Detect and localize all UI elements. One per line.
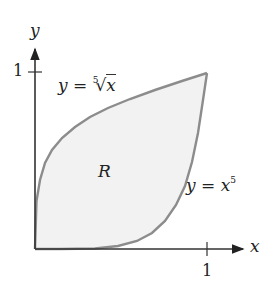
fifth-power-label: y = x5	[186, 176, 236, 194]
y-tick-label: 1	[13, 63, 23, 79]
fifth-power-lhs: y =	[186, 175, 215, 195]
region-diagram: y x 1 1 y = 5√x y = x5 R	[0, 0, 270, 296]
power-exponent: 5	[230, 175, 236, 185]
region-r-fill	[35, 73, 207, 249]
x-axis-label: x	[250, 238, 260, 255]
radicand: x	[106, 74, 116, 95]
y-axis-label: y	[30, 22, 40, 39]
region-label: R	[98, 163, 111, 180]
root-index: 5	[93, 75, 99, 85]
fifth-root-label: y = 5√x	[58, 77, 116, 94]
fifth-root-lhs: y =	[58, 75, 87, 95]
x-tick-label: 1	[202, 263, 212, 279]
diagram-canvas	[0, 0, 270, 296]
power-base: x	[221, 175, 231, 195]
